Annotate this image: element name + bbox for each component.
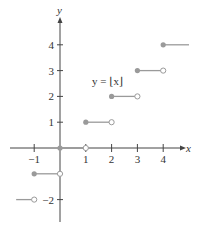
open-point-icon [109, 120, 114, 125]
closed-point-icon [57, 145, 62, 150]
x-tick-label: 2 [109, 153, 115, 165]
open-point-icon [32, 197, 37, 202]
axes [10, 17, 186, 222]
x-tick-label: 4 [160, 153, 166, 165]
equation-label: y = ⌊x⌋ [92, 75, 123, 87]
y-tick-label: −2 [42, 194, 54, 206]
x-tick-label: 1 [83, 153, 89, 165]
closed-point-icon [109, 94, 114, 99]
floor-function-graph: −11234−21234 y = ⌊x⌋ x y [0, 0, 198, 225]
y-axis-arrow-icon [58, 17, 63, 23]
x-tick-label: −1 [28, 153, 40, 165]
closed-point-icon [32, 171, 37, 176]
y-tick-label: 3 [49, 65, 55, 77]
closed-point-icon [83, 120, 88, 125]
y-tick-label: 1 [49, 116, 55, 128]
closed-point-icon [161, 42, 166, 47]
y-tick-label: 4 [49, 39, 55, 51]
open-point-icon [57, 171, 62, 176]
open-point-icon [83, 145, 88, 150]
y-tick-label: 2 [49, 90, 55, 102]
x-axis-label: x [185, 142, 191, 154]
closed-point-icon [135, 68, 140, 73]
x-tick-label: 3 [135, 153, 141, 165]
y-axis-label: y [56, 4, 62, 16]
step-segments [16, 42, 189, 202]
open-point-icon [161, 68, 166, 73]
open-point-icon [135, 94, 140, 99]
